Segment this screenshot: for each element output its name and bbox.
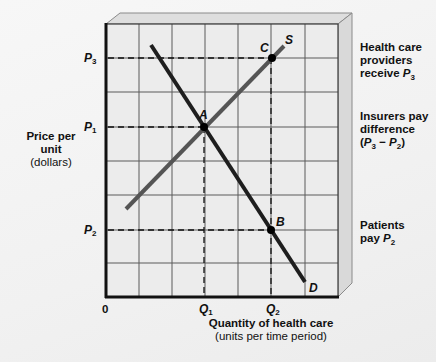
- y-tick-p2: P2: [84, 224, 96, 240]
- annotation-insurers: Insurers pay difference (P3 − P2): [360, 110, 436, 153]
- annotation-providers: Health care providers receive P3: [360, 41, 436, 84]
- y-tick-p3: P3: [84, 52, 96, 68]
- point-a-label: A: [199, 109, 208, 122]
- demand-label: D: [309, 282, 318, 295]
- point-c: [268, 54, 276, 62]
- point-a: [200, 123, 208, 131]
- point-c-label: C: [260, 42, 269, 55]
- supply-label: S: [285, 34, 293, 47]
- point-b-label: B: [276, 216, 285, 229]
- y-axis-title: Price per unit (dollars): [14, 130, 88, 169]
- annotation-patients: Patients pay P2: [360, 219, 436, 249]
- x-axis-title: Quantity of health care (units per time …: [170, 317, 372, 343]
- box-side-face: [338, 13, 352, 297]
- box-top-face: [106, 13, 352, 24]
- point-b: [267, 226, 275, 234]
- origin-label: 0: [102, 303, 108, 316]
